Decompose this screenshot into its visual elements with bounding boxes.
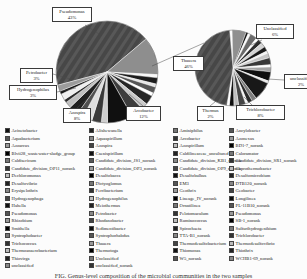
legend-label: Thermotoga xyxy=(96,248,118,253)
legend-swatch xyxy=(89,263,94,268)
legend-label: Rhizobium xyxy=(12,218,32,223)
legend-item: Thermodesulfovibrio xyxy=(229,240,297,248)
legend-label: WCHB1-69_norank xyxy=(236,256,273,261)
legend-label: Coprothermobacter xyxy=(236,166,272,171)
legend-label: Azoarcus xyxy=(12,143,29,148)
legend-label: Smithella xyxy=(12,226,30,231)
legend-item: Aquabacterium xyxy=(5,135,75,143)
legend-swatch xyxy=(89,158,94,163)
legend-swatch xyxy=(173,173,178,178)
callout-percent: 8% xyxy=(238,113,283,119)
legend-label: Blvii28_wastewater-sludge_group xyxy=(12,151,75,156)
callout-percent: 46% xyxy=(175,64,202,70)
legend-label: Hahella xyxy=(12,203,26,208)
legend-label: Pseudomonas xyxy=(236,211,261,216)
legend-label: Ferribacterium xyxy=(96,188,123,193)
legend: AcinetobacterAquabacteriumAzoarcusBlvii2… xyxy=(0,127,307,273)
legend-label: Candidate_division_OP3_norank xyxy=(96,166,157,171)
legend-label: Candidate_division_SR1_norank xyxy=(236,158,297,163)
legend-swatch xyxy=(229,128,234,133)
legend-item: Azoarcus xyxy=(5,142,75,150)
callout-trichlorobacter: Trichlorobacter8% xyxy=(236,105,285,120)
legend-label: Thiomonas xyxy=(180,248,201,253)
legend-item: Hahella xyxy=(5,202,75,210)
legend-item: Rhizobium xyxy=(5,217,75,225)
legend-swatch xyxy=(173,143,178,148)
legend-label: Caldilineaceae_uncultured xyxy=(180,151,229,156)
callout-percent: 12% xyxy=(128,114,159,120)
legend-label: Desulfobacca xyxy=(96,173,121,178)
legend-swatch xyxy=(173,203,178,208)
legend-label: W5_norank xyxy=(180,256,202,261)
legend-swatch xyxy=(173,196,178,201)
legend-swatch xyxy=(89,233,94,238)
legend-item: unclassified xyxy=(5,262,75,270)
legend-swatch xyxy=(229,158,234,163)
legend-item: Ferribacterium xyxy=(89,187,157,195)
legend-label: Dictyoglomus xyxy=(96,181,122,186)
legend-swatch xyxy=(173,233,178,238)
callout-percent: 2% xyxy=(286,82,307,88)
legend-item: Unclassified xyxy=(89,255,157,263)
legend-swatch xyxy=(5,136,10,141)
legend-label: Ancylobacter xyxy=(236,128,261,133)
legend-label: Thiothrix xyxy=(236,248,253,253)
legend-swatch xyxy=(229,188,234,193)
legend-label: Acinetobacter xyxy=(12,128,38,133)
legend-label: Ruminococcus xyxy=(180,218,207,223)
legend-column-4: AncylobacterAzonexusBD1-7_norankCalorama… xyxy=(229,127,297,262)
legend-swatch xyxy=(229,211,234,216)
legend-swatch xyxy=(229,151,234,156)
legend-column-2: AlishewanellaAquaspirillumAzospiraCaenis… xyxy=(89,127,157,270)
legend-item: Hydrogenophilus xyxy=(89,195,157,203)
legend-item: Acinetobacter xyxy=(5,127,75,135)
legend-swatch xyxy=(5,166,10,171)
legend-swatch xyxy=(89,218,94,223)
legend-swatch xyxy=(89,256,94,261)
legend-item: Candidate_division_SR1_norank xyxy=(229,157,297,165)
legend-item: Longilinea xyxy=(229,195,297,203)
leader-line xyxy=(268,79,284,80)
legend-item: Aquaspirillum xyxy=(89,135,157,143)
legend-swatch xyxy=(5,211,10,216)
legend-label: Thiovirga xyxy=(12,256,30,261)
legend-swatch xyxy=(173,248,178,253)
legend-label: Thermodesulfobacterium xyxy=(180,241,226,246)
legend-item: Dictyoglomus xyxy=(89,180,157,188)
legend-item: Alishewanella xyxy=(89,127,157,135)
legend-swatch xyxy=(229,233,234,238)
legend-label: Petrobacter xyxy=(96,211,117,216)
legend-swatch xyxy=(89,196,94,201)
legend-label: unclassified xyxy=(12,263,34,268)
legend-swatch xyxy=(5,233,10,238)
legend-label: Candidate_division_JS1_norank xyxy=(96,158,156,163)
legend-item: Thermotoga xyxy=(89,247,157,255)
legend-swatch xyxy=(229,166,234,171)
callout-pseudomonas: Pseudomonas43% xyxy=(52,7,92,22)
legend-label: Geobacter xyxy=(236,188,255,193)
legend-label: Azospira xyxy=(96,143,113,148)
legend-item: Trichococcus xyxy=(5,240,75,248)
legend-swatch xyxy=(229,181,234,186)
legend-label: Ornatilinea xyxy=(180,203,201,208)
legend-swatch xyxy=(5,218,10,223)
legend-swatch xyxy=(173,241,178,246)
legend-label: Caloramator xyxy=(236,151,259,156)
legend-swatch xyxy=(229,173,234,178)
legend-swatch xyxy=(89,181,94,186)
legend-label: Aquabacterium xyxy=(12,136,40,141)
callout-hydrogenophilus: Hydrogenophilus3% xyxy=(9,85,57,100)
legend-label: Alishewanella xyxy=(96,128,122,133)
legend-label: Thermoanaerobacterium xyxy=(12,248,57,253)
legend-swatch xyxy=(89,166,94,171)
legend-item: Desulfobacca xyxy=(89,172,157,180)
figure: Pseudomonas43%Petrobacter3%Hydrogenophil… xyxy=(0,0,307,279)
callout-percent: 3% xyxy=(22,76,51,82)
legend-label: Trichococcus xyxy=(12,241,37,246)
callout-taxon: unclassified xyxy=(286,76,307,82)
legend-swatch xyxy=(173,188,178,193)
legend-item: Thermoanaerobacterium xyxy=(5,247,75,255)
callout-taxon: Pseudomonas xyxy=(54,9,90,15)
legend-swatch xyxy=(5,188,10,193)
legend-label: Azospirillum xyxy=(180,143,204,148)
